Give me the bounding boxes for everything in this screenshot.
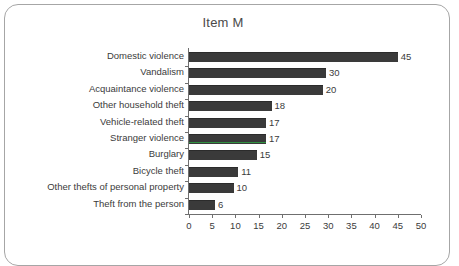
bar	[189, 150, 257, 160]
x-axis-tick	[259, 215, 260, 218]
category-label: Bicycle theft	[133, 165, 184, 176]
bar-value-label: 17	[269, 117, 280, 128]
category-label: Theft from the person	[93, 198, 184, 209]
x-axis-tick-label: 45	[388, 220, 408, 231]
bar-row: Burglary15	[0, 148, 459, 164]
bar-value-label: 6	[218, 199, 223, 210]
bar	[189, 167, 238, 177]
bar-row: Bicycle theft11	[0, 165, 459, 181]
x-axis-tick	[189, 215, 190, 218]
bar	[189, 52, 398, 62]
bar	[189, 200, 215, 210]
x-axis-tick-label: 20	[272, 220, 292, 231]
category-label: Acquaintance violence	[89, 83, 184, 94]
bar-value-label: 11	[241, 166, 251, 177]
x-axis-tick-label: 5	[202, 220, 222, 231]
category-label: Domestic violence	[107, 50, 184, 61]
bar-row: Vehicle-related theft17	[0, 116, 459, 132]
bar-row: Acquaintance violence20	[0, 83, 459, 99]
bar-row: Vandalism30	[0, 66, 459, 82]
x-axis-tick-label: 25	[295, 220, 315, 231]
category-label: Vehicle-related theft	[100, 116, 184, 127]
bar-value-label: 45	[401, 51, 412, 62]
bar-value-label: 18	[275, 100, 286, 111]
bar-row: Other household theft18	[0, 99, 459, 115]
x-axis-tick-label: 35	[341, 220, 361, 231]
category-label: Burglary	[149, 148, 184, 159]
bar-value-label: 10	[237, 182, 248, 193]
bar	[189, 118, 266, 128]
x-axis-tick-label: 40	[365, 220, 385, 231]
x-axis-tick	[398, 215, 399, 218]
x-axis-tick	[375, 215, 376, 218]
bar	[189, 68, 326, 78]
x-axis-tick-label: 0	[179, 220, 199, 231]
x-axis-tick	[421, 215, 422, 218]
bar-value-label: 15	[260, 149, 271, 160]
category-label: Vandalism	[140, 66, 184, 77]
bar	[189, 183, 234, 193]
x-axis-tick-label: 50	[411, 220, 431, 231]
bar	[189, 101, 272, 111]
bar	[189, 134, 266, 144]
bar-value-label: 30	[329, 67, 340, 78]
bar-row: Stranger violence17	[0, 132, 459, 148]
x-axis-tick	[212, 215, 213, 218]
x-axis-tick	[305, 215, 306, 218]
category-label: Other household theft	[93, 99, 184, 110]
x-axis-tick-label: 10	[225, 220, 245, 231]
bar	[189, 85, 323, 95]
x-axis-tick-label: 15	[249, 220, 269, 231]
x-axis-tick	[351, 215, 352, 218]
x-axis-tick	[235, 215, 236, 218]
bar-row: Domestic violence45	[0, 50, 459, 66]
bar-row: Theft from the person6	[0, 198, 459, 214]
bar-value-label: 17	[269, 133, 280, 144]
category-label: Other thefts of personal property	[47, 181, 184, 192]
y-axis-tick	[185, 214, 188, 215]
x-axis-tick-label: 30	[318, 220, 338, 231]
x-axis-tick	[282, 215, 283, 218]
bar-value-label: 20	[326, 84, 337, 95]
category-label: Stranger violence	[110, 132, 184, 143]
bar-row: Other thefts of personal property10	[0, 181, 459, 197]
x-axis-tick	[328, 215, 329, 218]
